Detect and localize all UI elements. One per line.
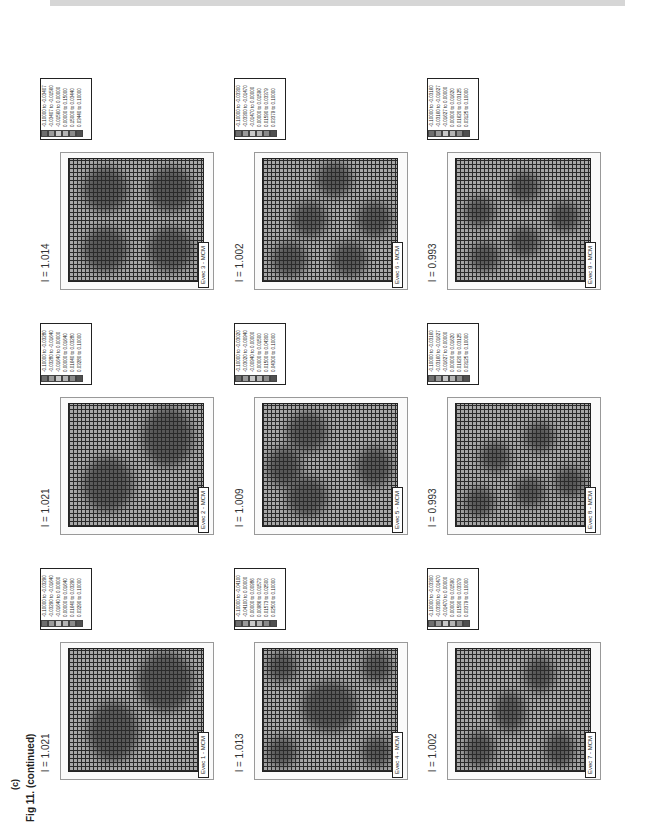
heatmap-grid xyxy=(455,648,591,772)
eigenvalue-label: l = 0.993 xyxy=(427,488,438,527)
grid-lines xyxy=(68,648,204,772)
legend-swatch xyxy=(76,620,83,627)
legend-range: 0.01500 to 0.04300 xyxy=(264,333,269,372)
legend-range: 0.01620 to 0.03125 xyxy=(457,88,462,127)
legend-swatch xyxy=(242,620,249,627)
legend-range: -0.10000 to -0.03407 xyxy=(42,85,47,127)
legend-swatch xyxy=(76,130,83,137)
grid-lines xyxy=(455,158,591,282)
legend-entry: -0.10000 to -0.03407 xyxy=(41,79,48,139)
legend-range: -0.03407 to -0.01560 xyxy=(49,85,54,127)
legend-range: -0.03020 to -0.00940 xyxy=(243,330,248,372)
legend-range: 0.00000 to 0.15000 xyxy=(63,88,68,127)
legend-entry: -0.01470 to 0.00000 xyxy=(249,79,256,139)
eigenvalue-label: l = 1.002 xyxy=(427,733,438,772)
legend-swatch xyxy=(249,375,256,382)
legend-range: -0.01470 to 0.00000 xyxy=(250,87,255,127)
legend-entry: 0.00000 to 0.00986 xyxy=(249,569,256,629)
evec-title: Evec 4 - MCM xyxy=(392,732,403,778)
legend-range: -0.01627 to 0.00000 xyxy=(443,87,448,127)
evec-title: Evec 8 - MCM xyxy=(585,487,596,533)
legend-entry: -0.03300 to -0.01470 xyxy=(242,79,249,139)
legend-range: -0.03160 to -0.01627 xyxy=(436,85,441,127)
rotated-panel-content: l = 0.993Evec 8 - MCM-0.10000 to -0.0316… xyxy=(425,315,600,535)
panel-label: (c) xyxy=(10,779,20,790)
legend-range: -0.04100 to 0.00000 xyxy=(243,577,248,617)
legend-swatch xyxy=(69,620,76,627)
legend-range: -0.10000 to -0.03160 xyxy=(429,85,434,127)
color-legend: -0.10000 to -0.03280-0.03280 to -0.01640… xyxy=(40,323,92,385)
legend-range: 0.00000 to 0.01500 xyxy=(257,333,262,372)
grid-lines xyxy=(68,403,204,527)
evec-title: Evec 1 - MCM xyxy=(198,732,209,778)
legend-swatch xyxy=(270,375,277,382)
legend-swatch xyxy=(69,375,76,382)
color-legend: -0.10000 to -0.03407-0.03407 to -0.01560… xyxy=(40,78,92,140)
grid-lines xyxy=(68,158,204,282)
legend-entry: -0.03300 to -0.01470 xyxy=(435,569,442,629)
legend-swatch xyxy=(442,620,449,627)
legend-swatch xyxy=(235,375,242,382)
legend-range: 0.03290 to 0.10000 xyxy=(77,578,82,617)
legend-entry: 0.03440 to 0.10000 xyxy=(76,79,83,139)
legend-entry: -0.10000 to -0.03300 xyxy=(235,79,242,139)
legend-range: 0.01640 to 0.03290 xyxy=(70,578,75,617)
legend-entry: -0.04100 to 0.00000 xyxy=(242,569,249,629)
legend-swatch xyxy=(463,375,470,382)
legend-swatch xyxy=(463,620,470,627)
evec-title: Evec 9 - MCM xyxy=(585,242,596,288)
legend-entry: 0.00000 to 0.15000 xyxy=(62,79,69,139)
legend-entry: 0.01590 to 0.03379 xyxy=(263,79,270,139)
eigenvector-panel-7: l = 1.002Evec 7 - MCM-0.10000 to -0.0330… xyxy=(425,560,600,780)
legend-range: 0.01640 to 0.03280 xyxy=(70,333,75,372)
grid-lines xyxy=(262,403,398,527)
legend-entry: -0.03020 to -0.00940 xyxy=(242,324,249,384)
eigenvector-panel-4: l = 1.013Evec 4 - MCM-0.10000 to -0.0410… xyxy=(232,560,407,780)
legend-entry: 0.03379 to 0.10000 xyxy=(463,569,470,629)
legend-swatch xyxy=(449,130,456,137)
eigenvalue-label: l = 0.993 xyxy=(427,243,438,282)
legend-range: 0.15000 to 0.03440 xyxy=(70,88,75,127)
legend-entry: -0.00940 to 0.00000 xyxy=(249,324,256,384)
legend-range: 0.00000 to 0.01590 xyxy=(257,88,262,127)
legend-entry: 0.02500 to 0.10000 xyxy=(270,569,277,629)
legend-entry: 0.00000 to 0.01640 xyxy=(62,324,69,384)
legend-swatch xyxy=(442,130,449,137)
legend-entry: -0.01627 to 0.00000 xyxy=(442,324,449,384)
legend-entry: -0.10000 to -0.03280 xyxy=(41,324,48,384)
legend-range: 0.03125 to 0.10000 xyxy=(464,88,469,127)
legend-entry: -0.03280 to -0.01640 xyxy=(48,324,55,384)
legend-swatch xyxy=(428,620,435,627)
legend-range: 0.00000 to 0.01620 xyxy=(450,88,455,127)
legend-swatch xyxy=(69,130,76,137)
grid-lines xyxy=(455,648,591,772)
color-legend: -0.10000 to -0.03300-0.03300 to -0.01470… xyxy=(427,568,479,630)
legend-range: 0.00000 to 0.00986 xyxy=(250,578,255,617)
legend-range: 0.04300 to 0.10000 xyxy=(271,333,276,372)
legend-range: 0.00000 to 0.01620 xyxy=(450,333,455,372)
legend-swatch xyxy=(263,375,270,382)
legend-entry: 0.01590 to 0.03379 xyxy=(456,569,463,629)
evec-title: Evec 7 - MCM xyxy=(585,732,596,778)
legend-entry: 0.15000 to 0.03440 xyxy=(69,79,76,139)
legend-entry: 0.01640 to 0.03290 xyxy=(69,569,76,629)
legend-entry: 0.00000 to 0.01640 xyxy=(62,569,69,629)
legend-range: -0.03160 to -0.01627 xyxy=(436,330,441,372)
eigenvector-panel-3: l = 1.014Evec 3 - MCM-0.10000 to -0.0340… xyxy=(38,70,213,290)
legend-entry: 0.01500 to 0.04300 xyxy=(263,324,270,384)
legend-entry: 0.01573 to 0.02500 xyxy=(263,569,270,629)
legend-range: -0.10000 to -0.04100 xyxy=(236,575,241,617)
rotated-panel-content: l = 1.014Evec 3 - MCM-0.10000 to -0.0340… xyxy=(38,70,213,290)
color-legend: -0.10000 to -0.03160-0.03160 to -0.01627… xyxy=(427,78,479,140)
rotated-panel-content: l = 1.009Evec 5 - MCM-0.10000 to -0.0302… xyxy=(232,315,407,535)
color-legend: -0.10000 to -0.03300-0.03300 to -0.01470… xyxy=(234,78,286,140)
grid-lines xyxy=(262,158,398,282)
legend-swatch xyxy=(235,130,242,137)
legend-swatch xyxy=(48,375,55,382)
eigenvalue-label: l = 1.021 xyxy=(40,733,51,772)
legend-swatch xyxy=(463,130,470,137)
legend-entry: 0.00986 to 0.01573 xyxy=(256,569,263,629)
evec-title: Evec 2 - MCM xyxy=(198,487,209,533)
legend-swatch xyxy=(263,130,270,137)
legend-entry: -0.10000 to -0.04100 xyxy=(235,569,242,629)
